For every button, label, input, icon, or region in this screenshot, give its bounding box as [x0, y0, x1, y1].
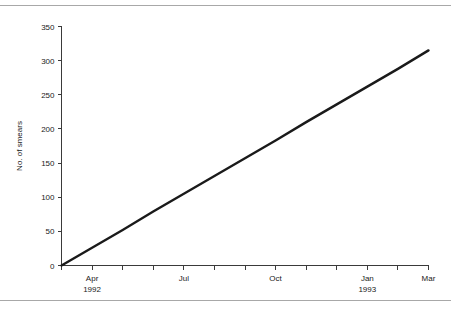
y-tick-label: 200	[41, 125, 55, 134]
series-line-cumulative-smears	[62, 50, 429, 265]
x-tick-label: Mar	[422, 274, 436, 283]
x-tick-label-year: 1993	[358, 285, 376, 294]
y-tick-label: 350	[41, 23, 55, 32]
y-axis-tick-labels: 050100150200250300350	[41, 23, 55, 271]
x-tick-label-year: 1992	[83, 285, 101, 294]
y-axis-ticks	[58, 27, 62, 266]
x-tick-label: Jan	[361, 274, 374, 283]
x-axis-tick-labels: Apr1992JulOctJan1993Mar	[83, 274, 436, 294]
x-axis-group: Apr1992JulOctJan1993Mar	[62, 266, 436, 294]
y-tick-label: 50	[46, 227, 55, 236]
y-tick-label: 250	[41, 91, 55, 100]
y-axis-title: No. of smears	[15, 121, 24, 171]
y-tick-label: 0	[50, 262, 55, 271]
chart-svg: 050100150200250300350 No. of smears Apr1…	[0, 0, 451, 310]
y-tick-label: 300	[41, 57, 55, 66]
x-tick-label: Jul	[179, 274, 189, 283]
line-chart-figure: 050100150200250300350 No. of smears Apr1…	[0, 0, 451, 310]
y-tick-label: 100	[41, 193, 55, 202]
x-axis-ticks	[62, 266, 429, 270]
y-axis-group: 050100150200250300350 No. of smears	[15, 23, 62, 271]
x-tick-label: Oct	[269, 274, 282, 283]
x-tick-label: Apr	[86, 274, 99, 283]
y-tick-label: 150	[41, 159, 55, 168]
plot-series-group	[62, 50, 429, 265]
